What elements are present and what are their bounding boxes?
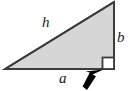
label-hypotenuse-h: h [42,15,50,30]
label-vertical-b: b [117,30,125,45]
label-base-a: a [59,71,67,86]
geometry-figure: h a b [0,0,129,90]
right-angle-square-icon [103,58,115,70]
cursor-arrow-icon [83,70,104,91]
